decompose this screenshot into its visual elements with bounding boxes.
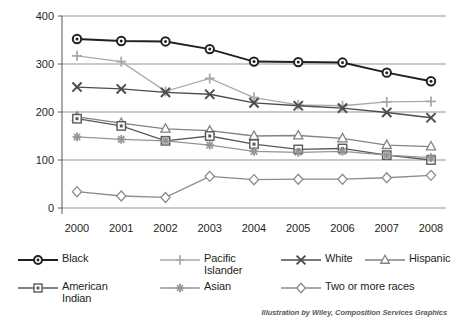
chart-legend: Black Pacific Islander White Hispanic Am… [18, 252, 443, 308]
legend-item-white[interactable]: White [281, 252, 366, 278]
legend-marker-circle-icon [18, 253, 58, 267]
legend-label: Pacific Islander [204, 252, 242, 276]
svg-text:2002: 2002 [153, 222, 177, 234]
svg-text:2000: 2000 [65, 222, 89, 234]
legend-label: Two or more races [325, 280, 414, 292]
svg-text:2003: 2003 [198, 222, 222, 234]
legend-marker-square-icon [18, 281, 58, 295]
series-black [73, 35, 435, 86]
legend-label: Black [62, 252, 88, 264]
legend-label: Asian [204, 280, 231, 292]
heart-disease-death-rate-chart: Death rate due to heart disease 01002003… [0, 0, 453, 324]
svg-text:2004: 2004 [242, 222, 266, 234]
legend-label: Hispanic [409, 252, 450, 264]
legend-label: American Indian [62, 280, 108, 304]
legend-item-black[interactable]: Black [18, 252, 168, 278]
y-tick-marks [58, 16, 62, 208]
legend-label: White [325, 252, 353, 264]
x-tick-labels: 200020012002200320042005200620072008 [65, 222, 443, 234]
illustration-credit: Illustration by Wiley, Composition Servi… [262, 308, 447, 317]
svg-text:400: 400 [36, 10, 54, 22]
y-tick-labels: 0100200300400 [36, 10, 54, 214]
svg-text:0: 0 [48, 202, 54, 214]
svg-text:100: 100 [36, 154, 54, 166]
svg-text:2005: 2005 [286, 222, 310, 234]
legend-marker-diamond-icon [281, 281, 321, 295]
legend-marker-asterisk-icon [160, 281, 200, 295]
svg-text:2008: 2008 [419, 222, 443, 234]
legend-row-1: Black Pacific Islander White Hispanic [18, 252, 443, 278]
legend-marker-plus-icon [160, 253, 200, 267]
legend-item-asian[interactable]: Asian [160, 280, 280, 306]
svg-text:300: 300 [36, 58, 54, 70]
plot-area: 0100200300400 20002001200220032004200520… [0, 0, 453, 252]
svg-text:2007: 2007 [375, 222, 399, 234]
legend-row-2: American Indian Asian Two or more races [18, 280, 443, 306]
svg-text:2006: 2006 [330, 222, 354, 234]
legend-item-american-indian[interactable]: American Indian [18, 280, 168, 306]
svg-text:2001: 2001 [109, 222, 133, 234]
legend-item-two-or-more-races[interactable]: Two or more races [281, 280, 453, 306]
legend-marker-x-icon [281, 253, 321, 267]
svg-text:200: 200 [36, 106, 54, 118]
legend-marker-triangle-icon [365, 253, 405, 267]
series-two-or-more-races [72, 170, 435, 202]
legend-item-pacific-islander[interactable]: Pacific Islander [160, 252, 290, 278]
legend-item-hispanic[interactable]: Hispanic [365, 252, 453, 278]
data-series-group [72, 35, 436, 203]
